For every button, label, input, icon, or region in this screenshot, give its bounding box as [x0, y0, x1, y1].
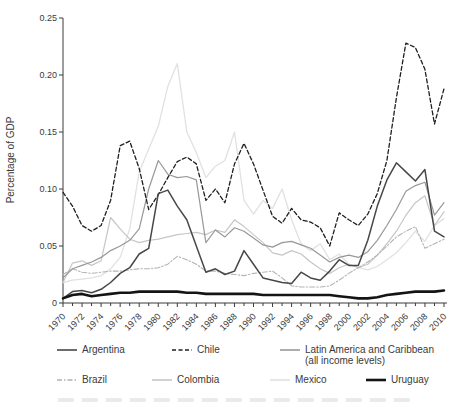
cut-off-caption-strip	[58, 398, 418, 402]
legend: ArgentinaChileLatin America and Caribbea…	[0, 0, 462, 62]
legend-swatch-uruguay	[366, 377, 386, 383]
legend-label-latam: Latin America and Caribbean(all income l…	[305, 344, 434, 366]
legend-swatch-chile	[172, 347, 192, 353]
series-line-chile	[63, 43, 444, 246]
x-tick-label: 1994	[275, 311, 296, 332]
x-tick-label: 1984	[180, 311, 201, 332]
legend-item-colombia: Colombia	[152, 374, 219, 385]
x-tick-label: 2010	[427, 311, 448, 332]
x-tick-label: 1996	[294, 311, 315, 332]
x-tick-label: 2004	[370, 311, 391, 332]
x-tick-label: 1986	[199, 311, 220, 332]
legend-item-argentina: Argentina	[57, 344, 125, 355]
legend-item-mexico: Mexico	[270, 374, 327, 385]
series-line-uruguay	[63, 291, 444, 299]
x-tick-label: 1980	[141, 311, 162, 332]
y-tick-label: 0.15	[39, 127, 57, 137]
x-tick-label: 1990	[237, 311, 258, 332]
x-tick-label: 1974	[84, 311, 105, 332]
legend-swatch-latam	[280, 347, 300, 353]
x-tick-label: 2002	[351, 311, 372, 332]
y-axis-title: Percentage of GDP	[5, 116, 16, 203]
legend-item-uruguay: Uruguay	[366, 374, 429, 385]
x-tick-label: 2000	[332, 311, 353, 332]
legend-swatch-argentina	[57, 347, 77, 353]
legend-swatch-mexico	[270, 377, 290, 383]
legend-item-brazil: Brazil	[57, 374, 107, 385]
legend-label-brazil: Brazil	[82, 374, 107, 385]
legend-label-mexico: Mexico	[295, 374, 327, 385]
legend-swatch-brazil	[57, 377, 77, 383]
y-tick-label: 0	[52, 298, 57, 308]
legend-label-argentina: Argentina	[82, 344, 125, 355]
x-tick-label: 1998	[313, 311, 334, 332]
x-tick-label: 1978	[122, 311, 143, 332]
legend-swatch-colombia	[152, 377, 172, 383]
x-tick-label: 1976	[103, 311, 124, 332]
y-tick-label: 0.10	[39, 184, 57, 194]
x-tick-label: 1988	[218, 311, 239, 332]
x-tick-label: 2008	[408, 311, 429, 332]
x-tick-label: 1970	[46, 311, 67, 332]
legend-label-colombia: Colombia	[177, 374, 219, 385]
series-line-argentina	[63, 163, 444, 299]
y-tick-label: 0.20	[39, 70, 57, 80]
legend-item-chile: Chile	[172, 344, 220, 355]
series-line-colombia	[63, 196, 444, 283]
x-tick-label: 1972	[65, 311, 86, 332]
y-tick-label: 0.05	[39, 241, 57, 251]
legend-item-latam: Latin America and Caribbean(all income l…	[280, 344, 434, 366]
series-line-mexico	[63, 64, 444, 283]
legend-label-uruguay: Uruguay	[391, 374, 429, 385]
legend-label-chile: Chile	[197, 344, 220, 355]
x-tick-label: 2006	[389, 311, 410, 332]
gdp-percentage-line-chart-figure: Percentage of GDP 00.050.100.150.200.251…	[0, 0, 462, 402]
x-tick-label: 1992	[256, 311, 277, 332]
x-tick-label: 1982	[160, 311, 181, 332]
